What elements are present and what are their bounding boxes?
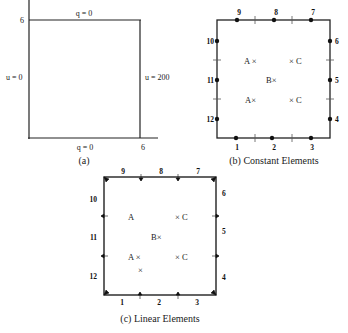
point-c-upper: × C xyxy=(289,56,302,66)
node-8 xyxy=(272,18,276,22)
node-12 xyxy=(215,117,219,121)
element-label-3: 3 xyxy=(195,298,199,307)
element-label-5: 5 xyxy=(222,227,226,236)
node-3 xyxy=(309,136,313,140)
node-9 xyxy=(235,18,239,22)
panel-c-caption: (c) Linear Elements xyxy=(120,313,200,325)
top-boundary-label: q = 0 xyxy=(76,9,93,18)
panel-c: 1 2 3 4 5 6 7 8 9 10 11 12 A × C B× A × … xyxy=(90,167,227,325)
bottom-boundary-label: q = 0 xyxy=(77,143,94,152)
node-1 xyxy=(234,136,238,140)
element-label-8: 8 xyxy=(159,167,163,176)
element-label-2: 2 xyxy=(157,298,161,307)
node-label-6: 6 xyxy=(335,37,339,46)
element-label-10: 10 xyxy=(90,195,98,204)
node-6 xyxy=(328,39,332,43)
panel-a: 6 6 q = 0 q = 0 u = 0 u = 200 (a) xyxy=(6,0,170,167)
panel-a-caption: (a) xyxy=(78,155,89,167)
node-label-3: 3 xyxy=(310,143,314,152)
node-10 xyxy=(215,39,219,43)
point-a-upper: A × xyxy=(244,56,257,66)
panel-b-caption: (b) Constant Elements xyxy=(229,155,319,167)
node-label-1: 1 xyxy=(235,143,239,152)
element-label-4: 4 xyxy=(222,273,226,282)
corner-marker xyxy=(211,290,216,295)
node-label-12: 12 xyxy=(207,115,215,124)
x-tick-label: 6 xyxy=(141,143,145,152)
point-c-lower: × C xyxy=(289,95,302,105)
element-label-1: 1 xyxy=(120,298,124,307)
left-boundary-label: u = 0 xyxy=(6,73,23,82)
point-c-lower: × C xyxy=(175,252,188,262)
corner-marker xyxy=(211,177,216,182)
right-boundary-label: u = 200 xyxy=(145,73,170,82)
node-label-2: 2 xyxy=(272,143,276,152)
node-label-5: 5 xyxy=(335,76,339,85)
node-4 xyxy=(328,117,332,121)
corner-marker xyxy=(104,290,109,295)
diagram-canvas: 6 6 q = 0 q = 0 u = 0 u = 200 (a) xyxy=(0,0,348,333)
y-tick-label: 6 xyxy=(20,16,24,25)
node-label-11: 11 xyxy=(207,76,214,85)
node-7 xyxy=(309,18,313,22)
panel-b: 1 2 3 4 5 6 7 8 9 10 11 12 A × × C B× A×… xyxy=(207,8,340,167)
node-2 xyxy=(270,136,274,140)
point-c-upper: × C xyxy=(175,212,188,222)
element-label-12: 12 xyxy=(90,272,98,281)
point-extra: × xyxy=(138,265,143,275)
element-label-11: 11 xyxy=(90,233,97,242)
point-a-upper: A xyxy=(128,212,135,222)
element-label-6: 6 xyxy=(222,189,226,198)
element-label-7: 7 xyxy=(196,167,200,176)
node-label-4: 4 xyxy=(335,115,339,124)
element-label-9: 9 xyxy=(121,167,125,176)
point-a-lower: A× xyxy=(245,95,256,105)
node-label-9: 9 xyxy=(237,8,241,17)
node-label-7: 7 xyxy=(311,8,315,17)
node-label-8: 8 xyxy=(274,8,278,17)
node-label-10: 10 xyxy=(207,37,215,46)
point-b: B× xyxy=(266,75,277,85)
node-11 xyxy=(215,78,219,82)
node-5 xyxy=(328,78,332,82)
point-b: B× xyxy=(151,232,162,242)
corner-marker xyxy=(104,177,109,182)
point-a-lower: A × xyxy=(128,252,141,262)
